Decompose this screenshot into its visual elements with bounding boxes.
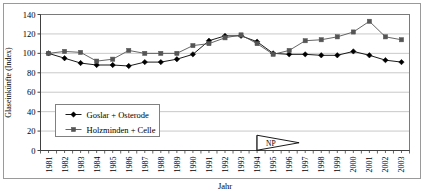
x-axis-tick-label: 1998 [317, 157, 326, 173]
y-axis-tick-label: 120 [23, 29, 36, 39]
data-point-marker [367, 19, 371, 23]
x-axis-tick-label: 1990 [189, 157, 198, 173]
data-point-marker [127, 48, 131, 52]
data-point-marker [271, 52, 275, 56]
figure-container: 020406080100120140Glaseinkünfte (Index)1… [0, 0, 424, 194]
line-chart: 020406080100120140Glaseinkünfte (Index)1… [0, 0, 424, 194]
data-point-marker [399, 38, 403, 42]
y-axis-title: Glaseinkünfte (Index) [4, 47, 13, 118]
data-point-marker [191, 43, 195, 47]
data-point-marker [111, 57, 115, 61]
data-point-marker [303, 39, 307, 43]
legend-marker-2 [71, 127, 75, 131]
data-point-marker [223, 36, 227, 40]
y-axis-tick-label: 40 [27, 107, 36, 117]
data-point-marker [143, 51, 147, 55]
x-axis-tick-label: 1988 [157, 157, 166, 173]
x-axis-tick-label: 2002 [381, 157, 390, 173]
x-axis-tick-label: 2003 [397, 157, 406, 173]
data-point-marker [207, 42, 211, 46]
x-axis-tick-label: 1996 [285, 157, 294, 173]
x-axis-tick-label: 2001 [365, 157, 374, 173]
data-point-marker [175, 51, 179, 55]
y-axis-tick-label: 20 [27, 126, 36, 136]
x-axis-tick-label: 1981 [45, 157, 54, 173]
x-axis-tick-label: 1997 [301, 157, 310, 173]
x-axis-tick-label: 1987 [141, 157, 150, 173]
data-point-marker [79, 50, 83, 54]
data-point-marker [46, 51, 50, 55]
legend-label-2: Holzminden + Celle [87, 125, 156, 135]
data-point-marker [287, 48, 291, 52]
x-axis-tick-label: 1994 [253, 157, 262, 173]
data-point-marker [95, 59, 99, 63]
x-axis-tick-label: 1984 [93, 157, 102, 173]
x-axis-tick-label: 1995 [269, 157, 278, 173]
y-axis-tick-label: 0 [31, 146, 35, 156]
data-point-marker [335, 35, 339, 39]
x-axis-tick-label: 2000 [349, 157, 358, 173]
legend-label-1: Goslar + Osterode [87, 110, 150, 120]
data-point-marker [383, 35, 387, 39]
x-axis-tick-label: 1992 [221, 157, 230, 173]
y-axis-tick-label: 80 [27, 68, 36, 78]
x-axis-tick-label: 1993 [237, 157, 246, 173]
flag-label: NP [266, 139, 276, 148]
x-axis-tick-label: 1999 [333, 157, 342, 173]
x-axis-tick-label: 1985 [109, 157, 118, 173]
y-axis-tick-label: 140 [23, 10, 36, 20]
x-axis-tick-label: 1991 [205, 157, 214, 173]
data-point-marker [351, 30, 355, 34]
x-axis-title: Jahr [218, 181, 232, 191]
data-point-marker [159, 51, 163, 55]
data-point-marker [62, 49, 66, 53]
legend: Goslar + OsterodeHolzminden + Celle [56, 105, 160, 137]
data-point-marker [255, 42, 259, 46]
y-axis-tick-label: 60 [27, 87, 36, 97]
data-point-marker [319, 38, 323, 42]
x-axis-tick-label: 1986 [125, 157, 134, 173]
y-axis-tick-label: 100 [23, 48, 36, 58]
data-point-marker [239, 33, 243, 37]
x-axis-tick-label: 1983 [77, 157, 86, 173]
x-axis-tick-label: 1989 [173, 157, 182, 173]
x-axis-tick-label: 1982 [61, 157, 70, 173]
